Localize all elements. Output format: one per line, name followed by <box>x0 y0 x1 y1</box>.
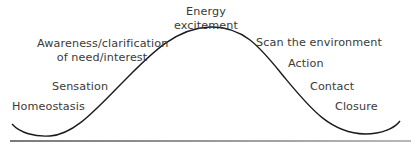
bottom-rule <box>10 140 411 142</box>
label-energy: Energy excitement <box>166 5 246 33</box>
label-action: Action <box>288 57 324 71</box>
label-energy-line1: Energy <box>166 5 246 19</box>
label-energy-line2: excitement <box>166 19 246 33</box>
label-closure: Closure <box>335 100 378 114</box>
label-awareness: Awareness/clarification of need/interest <box>37 37 167 65</box>
label-sensation: Sensation <box>52 80 108 94</box>
label-contact: Contact <box>310 80 354 94</box>
label-homeostasis: Homeostasis <box>12 100 85 114</box>
label-scan-environment: Scan the environment <box>256 36 382 50</box>
label-awareness-line1: Awareness/clarification <box>37 37 167 51</box>
cycle-of-experience-diagram: Energy excitement Awareness/clarificatio… <box>0 0 411 149</box>
label-awareness-line2: of need/interest <box>37 51 167 65</box>
